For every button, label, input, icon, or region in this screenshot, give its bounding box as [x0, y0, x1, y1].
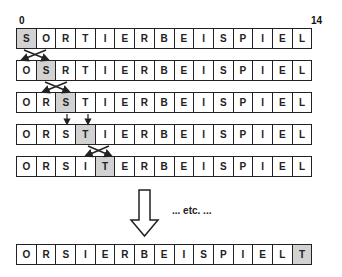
- transition-arrows: [0, 0, 342, 277]
- etc-label: ... etc. ...: [172, 205, 211, 216]
- swap-cross-icon: [88, 146, 109, 155]
- big-down-arrow-icon: [131, 190, 158, 236]
- swap-cross-icon: [45, 82, 67, 91]
- swap-cross-icon: [24, 50, 46, 59]
- down-arrow-icon: [67, 114, 88, 122]
